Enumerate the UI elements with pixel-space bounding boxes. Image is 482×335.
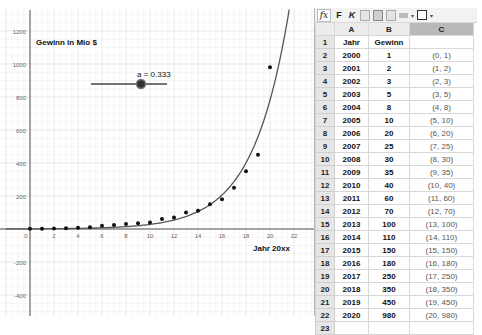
align-center-icon[interactable]: [373, 10, 383, 21]
data-point[interactable]: [220, 197, 224, 201]
cell-b[interactable]: 1: [369, 49, 410, 62]
cell-a[interactable]: 2006: [335, 127, 369, 140]
cell-a[interactable]: 2007: [335, 140, 369, 153]
data-point[interactable]: [268, 65, 272, 69]
italic-button[interactable]: K: [347, 10, 357, 21]
data-point[interactable]: [52, 227, 56, 231]
data-point[interactable]: [244, 169, 248, 173]
cell-c[interactable]: (0, 1): [410, 49, 474, 62]
cell-b[interactable]: 35: [369, 166, 410, 179]
cell-b[interactable]: 10: [369, 114, 410, 127]
data-point[interactable]: [40, 227, 44, 231]
cell-a[interactable]: 2004: [335, 101, 369, 114]
column-header-c[interactable]: C: [410, 23, 474, 36]
cell-a[interactable]: 2000: [335, 49, 369, 62]
row-header[interactable]: 17: [316, 244, 335, 257]
row-header[interactable]: 11: [316, 166, 335, 179]
cell-b[interactable]: 150: [369, 244, 410, 257]
cell-c[interactable]: (8, 30): [410, 153, 474, 166]
cell-b[interactable]: 110: [369, 231, 410, 244]
row-header[interactable]: 10: [316, 153, 335, 166]
cell-b[interactable]: 60: [369, 192, 410, 205]
cell-a[interactable]: 2005: [335, 114, 369, 127]
cell-c[interactable]: (17, 250): [410, 270, 474, 283]
cell-c[interactable]: (11, 60): [410, 192, 474, 205]
column-header-a[interactable]: A: [335, 23, 369, 36]
cell-b[interactable]: 100: [369, 218, 410, 231]
cell-b[interactable]: [369, 322, 410, 335]
cell-c[interactable]: (6, 20): [410, 127, 474, 140]
row-header[interactable]: 9: [316, 140, 335, 153]
row-header[interactable]: 8: [316, 127, 335, 140]
data-point[interactable]: [112, 223, 116, 227]
graphics-view[interactable]: 12001000800600400200-200-400024681012141…: [0, 8, 314, 316]
column-header-b[interactable]: B: [369, 23, 410, 36]
data-point[interactable]: [28, 227, 32, 231]
cell-c[interactable]: (4, 8): [410, 101, 474, 114]
data-point[interactable]: [256, 153, 260, 157]
data-point[interactable]: [232, 186, 236, 190]
cell-a[interactable]: 2019: [335, 296, 369, 309]
background-color-icon[interactable]: [399, 13, 408, 18]
cell-a[interactable]: 2016: [335, 257, 369, 270]
cell-c[interactable]: (14, 110): [410, 231, 474, 244]
cell-c[interactable]: (16, 180): [410, 257, 474, 270]
cell-b[interactable]: 8: [369, 101, 410, 114]
row-header[interactable]: 1: [316, 36, 335, 49]
row-header[interactable]: 13: [316, 192, 335, 205]
data-point[interactable]: [76, 226, 80, 230]
formula-fx-button[interactable]: fx: [317, 9, 331, 22]
cell-b[interactable]: 180: [369, 257, 410, 270]
cell-c[interactable]: (5, 10): [410, 114, 474, 127]
cell-a[interactable]: 2014: [335, 231, 369, 244]
corner-cell[interactable]: [316, 23, 335, 36]
cell-a[interactable]: 2009: [335, 166, 369, 179]
row-header[interactable]: 15: [316, 218, 335, 231]
data-point[interactable]: [184, 211, 188, 215]
row-header[interactable]: 7: [316, 114, 335, 127]
cell-b[interactable]: 70: [369, 205, 410, 218]
cell-b[interactable]: 2: [369, 62, 410, 75]
cell-b[interactable]: 40: [369, 179, 410, 192]
row-header[interactable]: 5: [316, 88, 335, 101]
cell-b[interactable]: 450: [369, 296, 410, 309]
cell-c[interactable]: (20, 980): [410, 309, 474, 322]
cell-c[interactable]: [410, 322, 474, 335]
data-point[interactable]: [208, 202, 212, 206]
cell-a[interactable]: 2001: [335, 62, 369, 75]
cell-a[interactable]: 2015: [335, 244, 369, 257]
cell-b[interactable]: Gewinn: [369, 36, 410, 49]
cell-c[interactable]: (9, 35): [410, 166, 474, 179]
cell-a[interactable]: 2012: [335, 205, 369, 218]
plot-canvas[interactable]: 12001000800600400200-200-400024681012141…: [0, 8, 314, 316]
cell-c[interactable]: [410, 36, 474, 49]
row-header[interactable]: 6: [316, 101, 335, 114]
data-point[interactable]: [172, 215, 176, 219]
cell-b[interactable]: 980: [369, 309, 410, 322]
cell-c[interactable]: (18, 350): [410, 283, 474, 296]
row-header[interactable]: 22: [316, 309, 335, 322]
cell-a[interactable]: [335, 322, 369, 335]
row-header[interactable]: 20: [316, 283, 335, 296]
bold-button[interactable]: F: [334, 10, 344, 21]
cell-c[interactable]: (3, 5): [410, 88, 474, 101]
spreadsheet-view[interactable]: fx F K ▾ ▾ A B C 1JahrGewinn220001(0, 1)…: [314, 8, 482, 316]
cell-b[interactable]: 20: [369, 127, 410, 140]
border-style-icon[interactable]: [417, 10, 427, 20]
cell-a[interactable]: 2017: [335, 270, 369, 283]
data-point[interactable]: [148, 220, 152, 224]
data-point[interactable]: [196, 209, 200, 213]
data-point[interactable]: [124, 222, 128, 226]
cell-b[interactable]: 25: [369, 140, 410, 153]
cell-a[interactable]: 2008: [335, 153, 369, 166]
align-right-icon[interactable]: [386, 10, 396, 21]
row-header[interactable]: 4: [316, 75, 335, 88]
cell-a[interactable]: 2013: [335, 218, 369, 231]
cell-b[interactable]: 350: [369, 283, 410, 296]
row-header[interactable]: 2: [316, 49, 335, 62]
cell-b[interactable]: 5: [369, 88, 410, 101]
cell-c[interactable]: (10, 40): [410, 179, 474, 192]
align-left-icon[interactable]: [360, 10, 370, 21]
slider-a[interactable]: a = 0.333: [91, 70, 171, 89]
row-header[interactable]: 21: [316, 296, 335, 309]
